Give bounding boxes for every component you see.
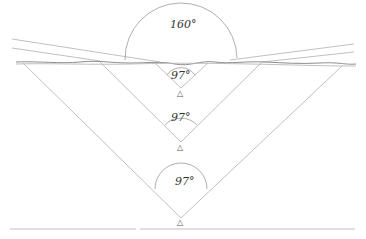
wide-sightline-right-lower (262, 52, 354, 62)
angle-label-160: 160° (170, 18, 197, 31)
angle-label-middle: 97° (171, 111, 191, 124)
angle-label-far: 97° (175, 175, 195, 188)
wide-sightline-left-lower (12, 48, 100, 61)
angle-label-near: 97° (171, 69, 191, 82)
observer-icon-middle: △ (177, 143, 184, 152)
angle-arc-160 (125, 3, 237, 60)
wide-sightline-right-upper (230, 44, 354, 60)
observer-icon-far: △ (177, 218, 184, 227)
observer-icon-near: △ (177, 89, 184, 98)
viewing-angle-diagram: 160° 97° △ 97° △ 97° △ (0, 0, 366, 239)
